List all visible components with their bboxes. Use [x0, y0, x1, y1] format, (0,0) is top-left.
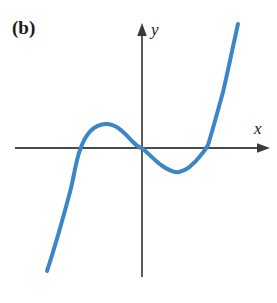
y-axis-label: y	[151, 21, 159, 38]
y-axis-arrow-icon	[137, 23, 147, 36]
figure-panel-b: (b) y x	[0, 0, 277, 303]
x-axis-arrow-icon	[257, 143, 270, 153]
x-axis-label: x	[254, 120, 262, 137]
graph-canvas	[0, 0, 277, 303]
